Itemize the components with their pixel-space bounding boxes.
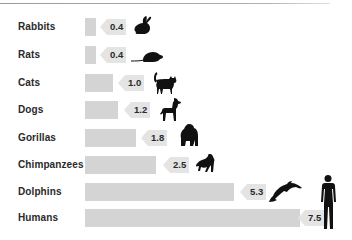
rat-icon xyxy=(130,47,164,65)
value-label: 5.3 xyxy=(247,184,266,200)
category-label: Gorillas xyxy=(18,132,56,143)
cat-icon xyxy=(152,68,178,94)
chimpanzee-icon xyxy=(194,153,216,175)
category-label: Rats xyxy=(18,49,40,60)
chart-row-chimpanzees: Chimpanzees 2.5 xyxy=(0,156,352,176)
value-label: 0.4 xyxy=(107,19,126,35)
value-label: 2.5 xyxy=(170,157,189,173)
brain-ratio-bar-chart: Rabbits 0.4 Rats 0.4 Cats 1.0 Dogs xyxy=(0,0,352,240)
dog-icon xyxy=(157,96,183,122)
category-label: Chimpanzees xyxy=(18,159,84,170)
gorilla-icon xyxy=(176,123,200,147)
value-label: 1.8 xyxy=(148,130,167,146)
bar-dogs xyxy=(85,101,118,119)
chart-row-dolphins: Dolphins 5.3 xyxy=(0,183,352,203)
chart-row-rabbits: Rabbits 0.4 xyxy=(0,18,352,38)
category-label: Dogs xyxy=(18,104,43,115)
bar-humans xyxy=(85,209,300,227)
bar-dolphins xyxy=(85,183,234,201)
value-label: 1.2 xyxy=(131,102,150,118)
bar-gorillas xyxy=(85,129,136,147)
dolphin-icon xyxy=(267,177,303,203)
bar-chimpanzees xyxy=(85,156,156,174)
chart-row-gorillas: Gorillas 1.8 xyxy=(0,129,352,149)
bar-cats xyxy=(85,74,113,92)
value-label: 1.0 xyxy=(125,75,144,91)
chart-row-rats: Rats 0.4 xyxy=(0,46,352,66)
chart-row-humans: Humans 7.5 xyxy=(0,209,352,229)
category-label: Dolphins xyxy=(18,186,62,197)
category-label: Humans xyxy=(18,212,58,223)
value-label: 0.4 xyxy=(107,47,126,63)
human-icon xyxy=(320,174,336,230)
bar-rabbits xyxy=(85,18,96,36)
category-label: Rabbits xyxy=(18,21,55,32)
chart-row-cats: Cats 1.0 xyxy=(0,74,352,94)
category-label: Cats xyxy=(18,77,40,88)
rabbit-icon xyxy=(132,14,156,38)
bar-rats xyxy=(85,46,96,64)
chart-row-dogs: Dogs 1.2 xyxy=(0,101,352,121)
